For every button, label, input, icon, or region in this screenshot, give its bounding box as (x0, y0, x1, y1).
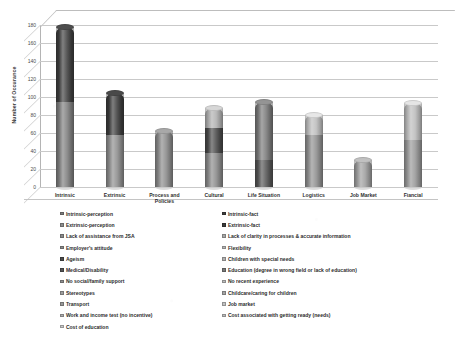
legend-item[interactable]: Intrinsic-perception (60, 208, 220, 219)
legend-label: Childcare/caring for children (228, 290, 297, 296)
bar-segment[interactable] (205, 128, 223, 153)
legend-item[interactable]: Transport (60, 298, 220, 309)
legend-item[interactable]: Lack of clarity in processes & accurate … (222, 231, 442, 242)
bar-segment[interactable] (106, 93, 124, 135)
y-tick-label: 20 (14, 167, 36, 172)
x-tick-label: Job Market (339, 192, 389, 198)
legend-swatch-icon (60, 280, 64, 284)
legend-item[interactable]: Children with special needs (222, 253, 442, 264)
y-axis-tick-labels: 020406080100120140160180 (12, 0, 36, 205)
bar-segment[interactable] (255, 102, 273, 161)
cylinder-shading (205, 153, 223, 187)
legend-swatch-icon (222, 212, 226, 216)
y-tick-label: 0 (14, 185, 36, 190)
legend-item[interactable]: Lack of assistance from JSA (60, 231, 220, 242)
legend-label: Intrinsic-perception (66, 211, 113, 217)
legend-label: Cost associated with getting ready (need… (228, 312, 331, 318)
gridline (40, 187, 438, 188)
legend-swatch-icon (222, 280, 226, 284)
bar-segment[interactable] (354, 160, 372, 187)
bar-column[interactable] (404, 103, 422, 187)
bar-column[interactable] (255, 102, 273, 188)
bar-segment[interactable] (255, 160, 273, 187)
legend-label: Medical/Disability (66, 267, 108, 273)
cylinder-shading (106, 135, 124, 187)
legend-item[interactable]: Ageism (60, 253, 220, 264)
legend-label: Stereotypes (66, 290, 95, 296)
y-tick-label: 60 (14, 131, 36, 136)
legend-swatch-icon (60, 268, 64, 272)
x-tick-label: Fiancial (388, 192, 438, 198)
legend-item[interactable]: No social/family support (60, 276, 220, 287)
bar-segment[interactable] (404, 140, 422, 187)
legend-item[interactable]: Flexibility (222, 242, 442, 253)
x-tick-label: Cultural (189, 192, 239, 198)
legend-item[interactable]: Work and income test (no incentive) (60, 310, 220, 321)
legend-label: Lack of assistance from JSA (66, 233, 135, 239)
x-tick-label: Process and Policies (140, 192, 190, 205)
legend-item[interactable]: Education (degree in wrong field or lack… (222, 264, 442, 275)
bar-segment[interactable] (56, 27, 74, 103)
legend-item[interactable]: Extrinsic-fact (222, 219, 442, 230)
cylinder-shading (354, 160, 372, 187)
legend-swatch-icon (60, 314, 64, 318)
bar-column[interactable] (155, 131, 173, 187)
bar-segment[interactable] (305, 115, 323, 135)
legend-swatch-icon (222, 314, 226, 318)
legend-item[interactable]: Extrinsic-perception (60, 219, 220, 230)
legend-item[interactable]: Cost of education (60, 321, 220, 332)
legend-swatch-icon (60, 257, 64, 261)
legend-item[interactable]: Childcare/caring for children (222, 287, 442, 298)
y-tick-label: 40 (14, 149, 36, 154)
cylinder-shading (305, 135, 323, 187)
legend-item[interactable]: Stereotypes (60, 287, 220, 298)
legend-item[interactable]: Job market (222, 298, 442, 309)
bar-segment[interactable] (56, 102, 74, 187)
y-tick-label: 120 (14, 77, 36, 82)
y-tick-label: 160 (14, 41, 36, 46)
legend-label: No recent experience (228, 278, 279, 284)
y-tick-label: 80 (14, 113, 36, 118)
legend-label: Intrinsic-fact (228, 211, 258, 217)
bar-column[interactable] (106, 93, 124, 187)
legend-swatch-icon (222, 302, 226, 306)
bar-segment[interactable] (305, 135, 323, 187)
legend-swatch-icon (60, 223, 64, 227)
bar-segment[interactable] (106, 135, 124, 187)
legend-swatch-icon (222, 291, 226, 295)
legend-label: Job market (228, 301, 255, 307)
x-tick-label: Extrinsic (90, 192, 140, 198)
bar-column[interactable] (305, 115, 323, 187)
legend-label: Transport (66, 301, 89, 307)
bar-column[interactable] (56, 27, 74, 187)
legend-label: Extrinsic-perception (66, 222, 115, 228)
bar-column[interactable] (354, 160, 372, 187)
cylinder-shading (205, 128, 223, 153)
legend-swatch-icon (60, 325, 64, 329)
legend-label: Cost of education (66, 324, 109, 330)
legend-label: Education (degree in wrong field or lack… (228, 267, 357, 273)
bar-segment[interactable] (404, 103, 422, 140)
legend-column-right: Intrinsic-factExtrinsic-factLack of clar… (222, 208, 442, 321)
legend-item[interactable]: Employer's attitude (60, 242, 220, 253)
legend-item[interactable]: No recent experience (222, 276, 442, 287)
legend-label: Flexibility (228, 245, 251, 251)
legend-label: No social/family support (66, 278, 125, 284)
bar-segment[interactable] (205, 153, 223, 187)
bar-column[interactable] (205, 108, 223, 187)
legend-swatch-icon (222, 268, 226, 272)
cylinder-shading (255, 102, 273, 161)
legend-item[interactable]: Cost associated with getting ready (need… (222, 310, 442, 321)
bar-segment[interactable] (155, 131, 173, 187)
legend-item[interactable]: Medical/Disability (60, 264, 220, 275)
cylinder-shading (155, 131, 173, 187)
legend-column-left: Intrinsic-perceptionExtrinsic-perception… (60, 208, 220, 332)
legend-swatch-icon (60, 246, 64, 250)
legend-item[interactable]: Intrinsic-fact (222, 208, 442, 219)
chart-legend: Intrinsic-perceptionExtrinsic-perception… (0, 208, 452, 354)
y-tick-label: 100 (14, 95, 36, 100)
bar-segment[interactable] (205, 108, 223, 128)
legend-swatch-icon (222, 246, 226, 250)
cylinder-shading (255, 160, 273, 187)
